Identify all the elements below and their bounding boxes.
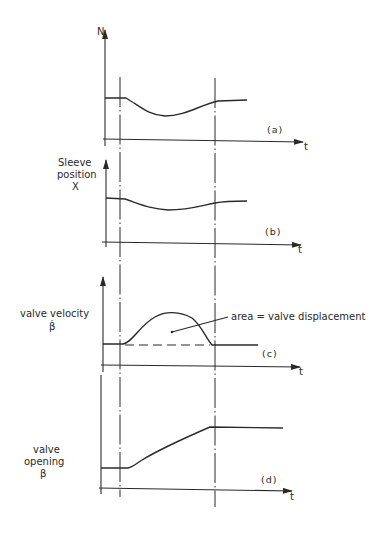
- panel-d: valve opening β t (d): [24, 375, 294, 502]
- speed-curve: [105, 98, 247, 116]
- panel-tag-d: (d): [261, 474, 277, 485]
- valve-opening-curve: [101, 427, 283, 468]
- x-label-b: t: [298, 244, 302, 255]
- y-label-d-line3: β: [40, 468, 46, 479]
- panel-b: Sleeve position X t (b): [57, 157, 302, 255]
- x-label-a: t: [304, 141, 308, 152]
- annotation-leader: [172, 317, 228, 332]
- panel-c: area = valve displacement valve velocity…: [20, 277, 366, 377]
- y-label-c-line1: valve velocity: [20, 308, 89, 319]
- y-label-d-line2: opening: [24, 456, 64, 467]
- panel-a: N t (a): [97, 26, 308, 152]
- sleeve-position-curve: [106, 198, 247, 210]
- annotation-dot: [171, 331, 174, 334]
- y-label-b-line1: Sleeve: [58, 157, 92, 168]
- y-label-b-line2: position: [57, 169, 97, 180]
- t-axis-b: [102, 242, 301, 245]
- y-label-d-line1: valve: [33, 444, 60, 455]
- y-label-b-line3: X: [72, 181, 79, 192]
- x-label-c: t: [299, 366, 303, 377]
- t-axis-d: [99, 488, 292, 491]
- t-axis-a: [103, 139, 303, 142]
- annotation-text: area = valve displacement: [231, 311, 366, 322]
- panel-tag-b: (b): [265, 226, 281, 237]
- panel-tag-c: (c): [262, 348, 278, 359]
- control-response-diagram: N t (a) Sleeve position X t (b) area = v…: [0, 0, 383, 533]
- y-label-c-line2: β̇: [49, 319, 55, 332]
- y-label-a: N: [97, 26, 104, 37]
- panel-tag-a: (a): [267, 124, 283, 135]
- x-label-d: t: [290, 491, 294, 502]
- t-axis-c: [101, 365, 300, 367]
